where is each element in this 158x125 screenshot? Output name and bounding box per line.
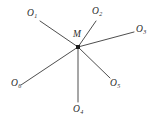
point-label-o3-subscript: 3 <box>143 29 146 35</box>
point-label-o3: O3 <box>136 25 146 35</box>
point-label-o6-subscript: 6 <box>18 83 21 89</box>
center-vertex-marker <box>76 45 80 49</box>
point-label-o3-letter: O <box>136 24 143 34</box>
point-label-o4: O4 <box>73 105 83 115</box>
center-point-label-m: M <box>73 30 81 40</box>
point-label-o2-subscript: 2 <box>99 11 102 17</box>
point-label-o2: O2 <box>92 7 102 17</box>
point-label-o5-subscript: 5 <box>117 83 120 89</box>
point-label-o1: O1 <box>27 9 37 19</box>
point-label-o1-subscript: 1 <box>34 13 37 19</box>
ray-to-o6 <box>21 47 78 85</box>
point-label-o6-letter: O <box>11 78 18 88</box>
point-label-o5-letter: O <box>110 78 117 88</box>
point-label-o2-letter: O <box>92 6 99 16</box>
ray-to-o5 <box>78 47 110 78</box>
center-label-text: M <box>73 29 81 39</box>
point-label-o1-letter: O <box>27 8 34 18</box>
point-label-o4-letter: O <box>73 104 80 114</box>
star-diagram-figure: M O1 O2 O3 O5 O4 O6 <box>0 0 158 125</box>
point-label-o4-subscript: 4 <box>80 109 83 115</box>
point-label-o5: O5 <box>110 79 120 89</box>
point-label-o6: O6 <box>11 79 21 89</box>
